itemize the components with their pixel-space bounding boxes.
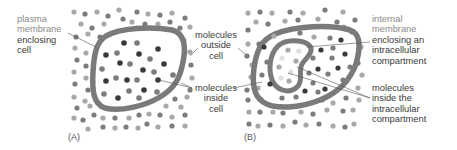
- internal-label-line1: internal: [372, 14, 426, 24]
- plasma-membrane-label-line2: membrane: [17, 24, 61, 34]
- internal-label-line2: membrane: [372, 24, 426, 34]
- outside-label-line3: cell: [192, 51, 240, 61]
- inside-label-line1: molecules: [192, 83, 240, 93]
- panel-b-tag: (B): [244, 132, 256, 142]
- molecules-outside-cell-label: molecules outside cell: [192, 30, 240, 61]
- internal-label-line3: enclosing an: [372, 35, 426, 45]
- outside-label-line2: outside: [192, 40, 240, 50]
- molecules-inside-compartment-label: molecules inside the intracellular compa…: [372, 83, 426, 125]
- plasma-membrane-label-line3: enclosing: [17, 35, 61, 45]
- compartment-label-line1: molecules: [372, 83, 426, 93]
- plasma-membrane-label-line4: cell: [17, 45, 61, 55]
- membrane-compartments-figure: plasma membrane enclosing cell molecules…: [0, 0, 457, 150]
- compartment-label-line2: inside the: [372, 93, 426, 103]
- internal-membrane-label: internal membrane enclosing an intracell…: [372, 14, 426, 66]
- inside-label-line3: cell: [192, 104, 240, 114]
- inside-label-line2: inside: [192, 93, 240, 103]
- plasma-membrane-label: plasma membrane enclosing cell: [17, 14, 61, 56]
- panel-b-internal-membrane: [270, 41, 311, 91]
- panel-a-tag: (A): [68, 132, 80, 142]
- internal-label-line4: intracellular: [372, 45, 426, 55]
- compartment-label-line4: compartment: [372, 114, 426, 124]
- panel-b-compartment-molecules: [276, 47, 301, 83]
- compartment-label-line3: intracellular: [372, 104, 426, 114]
- plasma-membrane-label-line1: plasma: [17, 14, 61, 24]
- outside-label-line1: molecules: [192, 30, 240, 40]
- internal-label-line5: compartment: [372, 56, 426, 66]
- molecules-inside-cell-label: molecules inside cell: [192, 83, 240, 114]
